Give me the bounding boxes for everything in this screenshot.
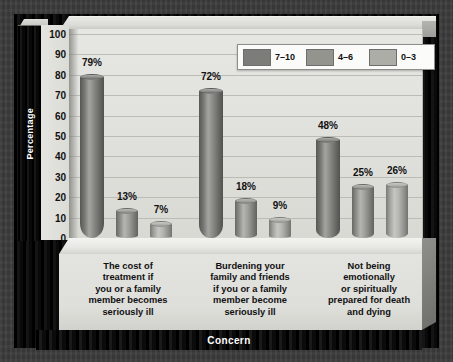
category-label-line: seriously ill (191, 307, 309, 318)
bar[interactable] (80, 71, 104, 238)
chart-top-bevel-right (422, 21, 436, 37)
category-label-line: Not being (308, 261, 430, 272)
gridline (69, 177, 422, 178)
x-axis-title-band: Concern (36, 330, 422, 350)
y-axis-tick-label: 20 (55, 192, 66, 203)
y-axis-tick-label: 30 (55, 171, 66, 182)
axis-depth-shadow (69, 29, 78, 238)
y-axis-tick-labels: 1009080706050403020100 (41, 25, 69, 240)
y-axis-tick-label: 60 (55, 110, 66, 121)
legend: 7–104–60–3 (237, 44, 435, 70)
bar[interactable] (269, 214, 291, 238)
category-label-line: family and friends (191, 272, 309, 283)
legend-item[interactable]: 0–3 (369, 49, 429, 66)
y-axis-panel: Percentage (18, 25, 41, 241)
bar-body (116, 211, 138, 238)
bar-body (352, 187, 374, 238)
chart-floor (59, 238, 422, 254)
category-label-line: and dying (308, 307, 430, 318)
gridline (69, 75, 422, 76)
y-axis-tick-label: 100 (49, 29, 66, 40)
category-label-line: The cost of (72, 261, 184, 272)
legend-label: 4–6 (338, 52, 353, 62)
gridline (69, 136, 422, 137)
bar[interactable] (352, 181, 374, 238)
legend-swatch (243, 49, 271, 66)
category-label-line: emotionally (308, 272, 430, 283)
bar-body (316, 140, 340, 238)
category-label-line: seriously ill (72, 307, 184, 318)
bar-body (235, 201, 257, 238)
y-axis-tick-label: 70 (55, 90, 66, 101)
y-axis-title: Percentage (18, 26, 41, 241)
legend-swatch (369, 49, 397, 66)
bar-top-ellipse (80, 74, 104, 80)
gridline (69, 34, 422, 35)
y-axis-tick-label: 80 (55, 69, 66, 80)
category-label-line: you or a family (72, 284, 184, 295)
x-axis-title-label: Concern (207, 335, 250, 346)
category-label-line: Burdening your (191, 261, 309, 272)
category-label-line: prepared for death (308, 295, 430, 306)
bar-body (199, 91, 223, 238)
legend-item[interactable]: 4–6 (306, 49, 366, 66)
category-label-line: or spiritually (308, 284, 430, 295)
bar-top-ellipse (150, 221, 172, 227)
legend-item[interactable]: 7–10 (243, 49, 303, 66)
y-axis-tick-label: 40 (55, 151, 66, 162)
x-axis-category-label: Burdening yourfamily and friendsif you o… (191, 261, 309, 318)
bar-chart: Percentage 1009080706050403020100 79%72%… (18, 16, 436, 332)
legend-swatch (306, 49, 334, 66)
bar[interactable] (116, 205, 138, 238)
gridline (69, 95, 422, 96)
category-label-line: member become (191, 295, 309, 306)
y-axis-tick-label: 10 (55, 212, 66, 223)
category-label-line: treatment if (72, 272, 184, 283)
bar[interactable] (150, 218, 172, 238)
legend-label: 7–10 (275, 52, 295, 62)
category-label-line: member becomes (72, 295, 184, 306)
bar[interactable] (386, 179, 408, 238)
legend-label: 0–3 (401, 52, 416, 62)
y-axis-tick-label: 50 (55, 131, 66, 142)
bar-body (386, 185, 408, 238)
y-axis-title-label: Percentage (25, 108, 35, 160)
bar-body (80, 77, 104, 238)
bar-top-ellipse (352, 184, 374, 190)
bar-top-ellipse (269, 217, 291, 223)
y-axis-tick-label: 90 (55, 49, 66, 60)
gridline (69, 156, 422, 157)
x-axis-category-label: The cost oftreatment ifyou or a familyme… (72, 261, 184, 318)
bar[interactable] (235, 195, 257, 238)
bar[interactable] (316, 134, 340, 238)
gridline (69, 116, 422, 117)
bar[interactable] (199, 85, 223, 238)
chart-screenshot: Percentage 1009080706050403020100 79%72%… (0, 0, 453, 362)
y-axis-tick-label: 0 (60, 233, 66, 244)
bar-top-ellipse (386, 182, 408, 188)
category-label-line: if you or a family (191, 284, 309, 295)
x-axis-category-label: Not beingemotionallyor spirituallyprepar… (308, 261, 430, 318)
